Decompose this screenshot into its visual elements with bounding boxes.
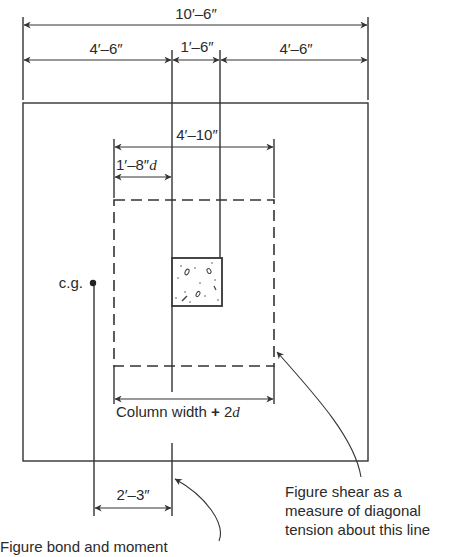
shear-note-line3: tension about this line <box>285 521 430 538</box>
bond-moment-leader-arrow <box>175 479 220 541</box>
critical-section-label: 4′–10″ <box>176 126 218 143</box>
cg-point <box>90 280 96 286</box>
column-width-label: 1′–6″ <box>180 38 214 55</box>
footing-plan-diagram: 10′–6″ 4′–6″ 1′–6″ 4′–6″ 4′–10″ 1′–8″d C… <box>0 0 469 557</box>
cg-offset-label: 2′–3″ <box>116 486 150 503</box>
overall-width-label: 10′–6″ <box>175 5 217 22</box>
left-offset-label: 4′–6″ <box>89 40 123 57</box>
shear-note-line1: Figure shear as a <box>285 483 402 500</box>
column <box>172 258 222 306</box>
cg-label: c.g. <box>59 274 83 291</box>
column-width-plus-2d-label: Column width + 2d <box>116 403 240 420</box>
bond-moment-note: Figure bond and moment <box>0 538 168 555</box>
shear-note-line2: measure of diagonal <box>285 502 421 519</box>
half-critical-label: 1′–8″d <box>116 156 157 173</box>
right-offset-label: 4′–6″ <box>279 40 313 57</box>
shear-leader-arrow <box>277 352 361 477</box>
